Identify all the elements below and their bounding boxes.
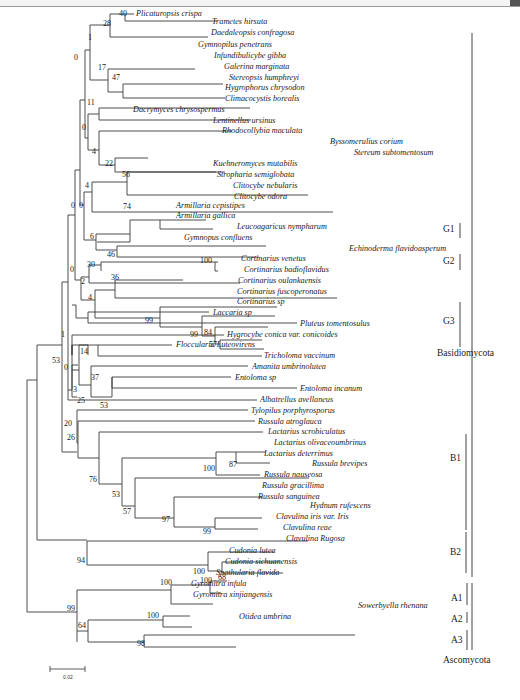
bootstrap-value: 0: [79, 201, 83, 210]
group-label-b1: B1: [450, 453, 461, 463]
taxon-label: Hydnum rufescens: [309, 501, 371, 510]
taxon-label: Cudonia sichuanensis: [225, 557, 297, 566]
taxon-label: Lactarius deterrimus: [263, 449, 333, 458]
group-label-a2: A2: [451, 614, 463, 624]
bootstrap-value: 40: [119, 9, 127, 18]
bootstrap-value: 26: [67, 433, 75, 442]
bootstrap-value: 97: [162, 515, 170, 524]
scale-bar: 0.02: [50, 666, 85, 680]
bootstrap-value: 3: [73, 385, 77, 394]
bootstrap-value: 1: [88, 33, 92, 42]
taxon-label: Entoloma sp: [234, 373, 276, 382]
bootstrap-value: 2: [81, 277, 85, 286]
bootstrap-value: 68: [218, 573, 226, 582]
bootstrap-value: 76: [89, 475, 97, 484]
bootstrap-value: 57: [123, 507, 131, 516]
bootstrap-value: 47: [112, 73, 120, 82]
bootstrap-value: 6: [90, 232, 94, 241]
taxon-label: Entoloma incanum: [299, 384, 362, 393]
taxon-label: Lactarius scrobiculatus: [267, 427, 345, 436]
taxon-label: Russula nauseosa: [263, 470, 322, 479]
taxon-label: Gymnopus confluens: [184, 233, 252, 242]
scale-bar-label: 0.02: [63, 674, 73, 680]
taxon-label: Pluteus tomentosulus: [299, 319, 370, 328]
bootstrap-value: 84: [204, 328, 212, 337]
group-label-g1: G1: [443, 224, 455, 234]
taxon-label: Albatrellus avellaneus: [259, 395, 333, 404]
bootstrap-value: 100: [203, 464, 215, 473]
bootstrap-value: 99: [203, 527, 211, 536]
group-label-ascomycota: Ascomycota: [443, 655, 491, 665]
taxon-label: Daedaleopsis confragosa: [210, 28, 294, 37]
group-label-a3: A3: [451, 635, 463, 645]
bootstrap-value: 100: [200, 576, 212, 585]
bootstrap-value: 37: [91, 373, 99, 382]
bootstrap-value: 17: [98, 63, 106, 72]
bootstrap-value: 30: [87, 260, 95, 269]
taxon-label: Russula brevipes: [311, 459, 367, 468]
taxon-label: Amanita umbrinolutea: [251, 362, 326, 371]
group-label-a1: A1: [451, 593, 463, 603]
bootstrap-value: 74: [123, 202, 131, 211]
taxon-label: Cortinarius oulankaensis: [238, 276, 321, 285]
bootstrap-value: 20: [64, 419, 72, 428]
bootstrap-value: 100: [160, 578, 172, 587]
taxon-label: Cortinarius badioflavidus: [244, 265, 329, 274]
bootstrap-value: 36: [111, 273, 119, 282]
taxon-label: Laccaria sp: [212, 308, 252, 317]
bootstrap-value: 0: [71, 201, 75, 210]
bootstrap-value: 53: [100, 401, 108, 410]
bootstrap-value: 99: [145, 316, 153, 325]
taxon-label: Rhodocollybia maculata: [221, 126, 302, 135]
bootstrap-value: 0: [82, 123, 86, 132]
bootstrap-value: 0: [70, 265, 74, 274]
group-brackets: G1 G2 G3 Basidiomycota B1 B2 A1 A2 A3 As…: [437, 33, 495, 665]
taxon-label: Hygrophorus chrysodon: [224, 83, 305, 92]
taxon-label: Stropharia semiglobata: [217, 170, 294, 179]
bootstrap-value: 11: [87, 98, 95, 107]
taxon-label: Clavulina iris var. Iris: [276, 512, 349, 521]
bootstrap-value: 53: [52, 356, 60, 365]
taxon-label: Cortinarius sp: [237, 297, 285, 306]
group-label-basidiomycota: Basidiomycota: [437, 348, 495, 358]
group-label-b2: B2: [450, 547, 461, 557]
taxon-label: Armillaria cepistipes: [175, 201, 245, 210]
taxon-label: Armillaria gallica: [175, 211, 235, 220]
bootstrap-value: 94: [77, 556, 85, 565]
taxon-label: Infundibulicybe gibba: [213, 51, 286, 60]
bootstrap-value: 99: [67, 604, 75, 613]
taxon-label: Cortinarius venetus: [241, 254, 306, 263]
taxon-label: Plicaturopsis crispa: [135, 9, 202, 18]
taxon-label: Gymnopilus penetrans: [198, 40, 272, 49]
taxon-label: Clavulina reae: [283, 523, 332, 532]
taxon-label: Climacocystis borealis: [225, 94, 300, 103]
taxon-label: Lactarius olivaceoumbrinus: [273, 438, 366, 447]
bootstrap-value: 4: [85, 181, 89, 190]
bootstrap-value: 22: [105, 159, 113, 168]
taxon-label: Otidea umbrina: [239, 612, 291, 621]
taxon-label: Kuehneromyces mutabilis: [212, 159, 298, 168]
bootstrap-value: 0: [64, 363, 68, 372]
taxon-label: Stereopsis humphreyi: [229, 73, 300, 82]
bootstrap-value: 14: [80, 347, 88, 356]
bootstrap-value: 56: [122, 170, 130, 179]
bootstrap-value: 87: [229, 460, 237, 469]
taxon-label: Echinoderma flavidoasperum: [348, 244, 446, 253]
taxon-label: Clitocybe nebularis: [233, 181, 297, 190]
bootstrap-value: 64: [78, 621, 86, 630]
bootstrap-value: 53: [112, 490, 120, 499]
phylogenetic-tree: Plicaturopsis crispaTrametes hirsutaDaed…: [0, 0, 520, 700]
taxon-label: Russula gracillima: [261, 481, 324, 490]
bootstrap-value: 46: [107, 250, 115, 259]
taxon-label: Tylopilus porphyrosporus: [251, 406, 335, 415]
taxon-label: Cudonia lutea: [229, 546, 276, 555]
taxon-label: Stereum subtomentosum: [354, 148, 434, 157]
taxon-labels: Plicaturopsis crispaTrametes hirsutaDaed…: [132, 9, 446, 621]
bootstrap-value: 4: [92, 147, 96, 156]
taxon-label: Tricholoma vaccinum: [264, 351, 335, 360]
bootstrap-value: 57: [209, 340, 217, 349]
bootstrap-value: 100: [200, 256, 212, 265]
bootstrap-value: 1: [61, 330, 65, 339]
group-label-g3: G3: [443, 316, 455, 326]
taxon-label: Gyromitra xinjiangensis: [193, 590, 273, 599]
